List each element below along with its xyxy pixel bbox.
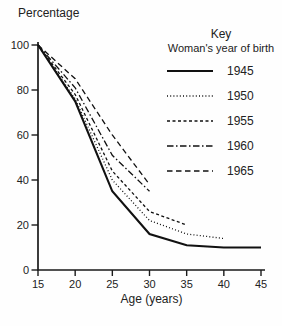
legend-title: Key [160,27,282,41]
legend-label: 1965 [227,164,254,178]
legend-item-1960: 1960 [167,133,282,158]
legend-line-sample-medium-dash [167,168,213,174]
legend-item-1945: 1945 [167,58,282,83]
legend-label: 1950 [227,89,254,103]
x-tick-label: 30 [143,278,155,290]
x-tick-label: 40 [218,278,230,290]
legend-items: 19451950195519601965 [160,58,282,183]
legend-line-sample-dash-dot [167,143,213,149]
x-tick-label: 15 [32,278,44,290]
legend-line-sample-fine-dot [167,93,213,99]
y-tick-label: 80 [17,84,29,96]
legend-label: 1945 [227,64,254,78]
legend-line-sample-short-dash [167,118,213,124]
legend-item-1965: 1965 [167,158,282,183]
y-tick-label: 60 [17,129,29,141]
legend-label: 1960 [227,139,254,153]
legend-item-1955: 1955 [167,108,282,133]
legend-subtitle: Woman's year of birth [160,41,282,55]
chart-figure: Percentage 02040608010015202530354045 Ke… [0,0,282,326]
legend: Key Woman's year of birth 19451950195519… [160,27,282,183]
y-tick-label: 40 [17,174,29,186]
x-tick-label: 25 [106,278,118,290]
y-tick-label: 0 [23,264,29,276]
series-line-1965 [38,45,150,185]
y-tick-label: 100 [11,39,29,51]
legend-item-1950: 1950 [167,83,282,108]
x-axis-title: Age (years) [38,292,265,306]
x-tick-label: 45 [255,278,267,290]
x-tick-label: 20 [69,278,81,290]
x-tick-label: 35 [181,278,193,290]
legend-label: 1955 [227,114,254,128]
y-tick-label: 20 [17,219,29,231]
legend-line-sample-solid [167,68,213,74]
